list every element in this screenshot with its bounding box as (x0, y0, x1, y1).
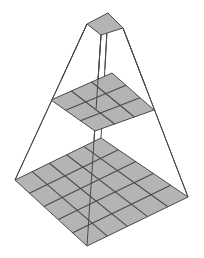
pyramid-svg (0, 0, 204, 258)
output-plane (87, 13, 123, 35)
output-cell-1x1 (87, 13, 123, 35)
middle-plane (51, 73, 154, 131)
projection-line-upper-left (62, 24, 87, 79)
middle-grid-3x3 (51, 73, 154, 131)
input-grid-5x5 (15, 138, 188, 246)
input-plane (15, 138, 188, 246)
projection-line-upper-right (123, 28, 146, 87)
receptive-field-diagram (0, 0, 204, 258)
